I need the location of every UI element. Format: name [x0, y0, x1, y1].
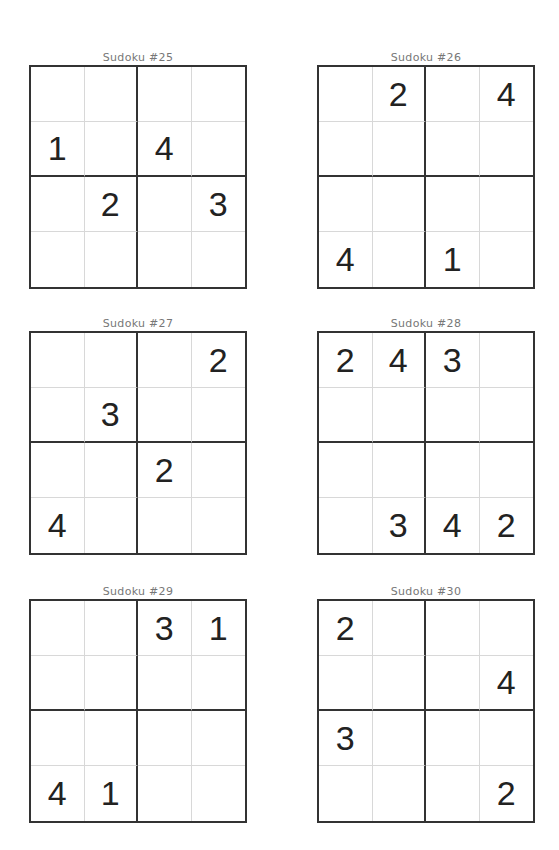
grid-cell[interactable]: 2	[319, 601, 373, 656]
grid-cell[interactable]	[426, 443, 480, 498]
grid-cell[interactable]	[31, 711, 85, 766]
grid-cell[interactable]: 4	[319, 232, 373, 287]
puzzle-title: Sudoku #25	[29, 52, 247, 64]
grid-cell[interactable]	[373, 388, 427, 443]
grid-cell[interactable]	[31, 656, 85, 711]
grid-cell[interactable]: 1	[31, 122, 85, 177]
grid-cell[interactable]	[480, 388, 534, 443]
grid-cell[interactable]: 2	[138, 443, 192, 498]
grid-cell[interactable]	[138, 656, 192, 711]
grid-cell[interactable]	[373, 656, 427, 711]
grid-cell[interactable]	[373, 443, 427, 498]
grid-cell[interactable]	[480, 443, 534, 498]
grid-cell[interactable]	[319, 388, 373, 443]
grid-cell[interactable]	[319, 443, 373, 498]
grid-cell[interactable]: 3	[426, 333, 480, 388]
grid-cell[interactable]	[192, 656, 246, 711]
grid-cell[interactable]	[426, 711, 480, 766]
grid-cell[interactable]	[192, 67, 246, 122]
grid-cell[interactable]	[138, 766, 192, 821]
grid-cell[interactable]	[373, 232, 427, 287]
grid-cell[interactable]: 2	[373, 67, 427, 122]
grid-cell[interactable]	[480, 232, 534, 287]
grid-cell[interactable]	[426, 67, 480, 122]
grid-cell[interactable]	[192, 388, 246, 443]
grid-cell[interactable]	[426, 656, 480, 711]
grid-cell[interactable]: 4	[31, 498, 85, 553]
grid-cell[interactable]	[426, 601, 480, 656]
grid-cell[interactable]	[85, 67, 139, 122]
grid-cell[interactable]	[480, 711, 534, 766]
grid-cell[interactable]: 3	[85, 388, 139, 443]
grid-cell[interactable]	[373, 601, 427, 656]
sudoku-grid: 243342	[317, 331, 535, 555]
grid-cell[interactable]: 1	[85, 766, 139, 821]
grid-cell[interactable]	[192, 766, 246, 821]
grid-cell[interactable]	[373, 711, 427, 766]
grid-cell[interactable]: 2	[480, 498, 534, 553]
grid-cell[interactable]	[85, 232, 139, 287]
grid-cell[interactable]: 1	[192, 601, 246, 656]
grid-cell[interactable]	[480, 122, 534, 177]
grid-cell[interactable]	[192, 122, 246, 177]
sudoku-grid: 2324	[29, 331, 247, 555]
grid-cell[interactable]: 4	[480, 656, 534, 711]
grid-cell[interactable]	[373, 766, 427, 821]
grid-cell[interactable]: 4	[426, 498, 480, 553]
grid-cell[interactable]: 1	[426, 232, 480, 287]
grid-cell[interactable]	[426, 388, 480, 443]
grid-cell[interactable]	[480, 601, 534, 656]
grid-cell[interactable]	[31, 601, 85, 656]
grid-cell[interactable]: 3	[373, 498, 427, 553]
grid-cell[interactable]	[373, 177, 427, 232]
grid-cell[interactable]	[138, 67, 192, 122]
grid-cell[interactable]: 4	[31, 766, 85, 821]
grid-cell[interactable]	[85, 601, 139, 656]
grid-cell[interactable]	[426, 177, 480, 232]
grid-cell[interactable]: 4	[138, 122, 192, 177]
grid-cell[interactable]	[31, 67, 85, 122]
grid-cell[interactable]	[192, 232, 246, 287]
grid-cell[interactable]	[138, 177, 192, 232]
grid-cell[interactable]	[319, 122, 373, 177]
grid-cell[interactable]	[319, 766, 373, 821]
grid-cell[interactable]: 2	[319, 333, 373, 388]
grid-cell[interactable]	[192, 443, 246, 498]
grid-cell[interactable]	[480, 177, 534, 232]
grid-cell[interactable]	[138, 711, 192, 766]
grid-cell[interactable]	[31, 388, 85, 443]
grid-cell[interactable]	[373, 122, 427, 177]
puzzle-title: Sudoku #27	[29, 318, 247, 330]
grid-cell[interactable]	[319, 656, 373, 711]
grid-cell[interactable]	[85, 711, 139, 766]
grid-cell[interactable]	[192, 711, 246, 766]
grid-cell[interactable]	[85, 443, 139, 498]
grid-cell[interactable]	[138, 232, 192, 287]
grid-cell[interactable]: 3	[192, 177, 246, 232]
grid-cell[interactable]: 3	[319, 711, 373, 766]
grid-cell[interactable]	[138, 333, 192, 388]
grid-cell[interactable]	[138, 388, 192, 443]
grid-cell[interactable]	[426, 766, 480, 821]
grid-cell[interactable]: 2	[192, 333, 246, 388]
grid-cell[interactable]: 3	[138, 601, 192, 656]
grid-cell[interactable]	[85, 333, 139, 388]
grid-cell[interactable]	[192, 498, 246, 553]
grid-cell[interactable]: 2	[85, 177, 139, 232]
grid-cell[interactable]	[319, 498, 373, 553]
grid-cell[interactable]	[85, 122, 139, 177]
grid-cell[interactable]: 2	[480, 766, 534, 821]
grid-cell[interactable]: 4	[373, 333, 427, 388]
grid-cell[interactable]	[480, 333, 534, 388]
grid-cell[interactable]	[85, 656, 139, 711]
grid-cell[interactable]	[85, 498, 139, 553]
grid-cell[interactable]	[426, 122, 480, 177]
grid-cell[interactable]: 4	[480, 67, 534, 122]
grid-cell[interactable]	[31, 177, 85, 232]
grid-cell[interactable]	[319, 67, 373, 122]
grid-cell[interactable]	[319, 177, 373, 232]
grid-cell[interactable]	[138, 498, 192, 553]
grid-cell[interactable]	[31, 333, 85, 388]
grid-cell[interactable]	[31, 232, 85, 287]
grid-cell[interactable]	[31, 443, 85, 498]
